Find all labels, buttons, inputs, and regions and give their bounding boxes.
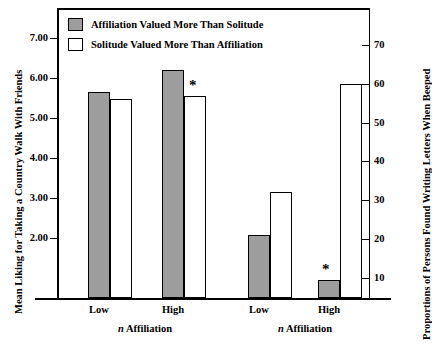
- tick-mark-left-5: [50, 118, 58, 119]
- tick-label-left-7: 7.00: [10, 33, 48, 44]
- x-axis-label-panel1-rest: Affiliation: [124, 323, 172, 334]
- tick-mark-right-40: [362, 161, 370, 162]
- plot-frame-top: [57, 8, 370, 10]
- tick-label-left-3: 3.00: [10, 193, 48, 204]
- legend-item-solitude: Solitude Valued More Than Affiliation: [68, 38, 263, 51]
- tick-label-right-10: 10: [374, 273, 398, 284]
- tick-label-right-20: 20: [374, 234, 398, 245]
- x-tick-label-panel1-low: Low: [79, 305, 119, 316]
- legend-item-affiliation: Affiliation Valued More Than Solitude: [68, 18, 263, 31]
- tick-mark-left-3: [50, 198, 58, 199]
- tick-label-right-60: 60: [374, 79, 398, 90]
- tick-label-right-70: 70: [374, 40, 398, 51]
- tick-label-right-30: 30: [374, 195, 398, 206]
- x-tick-label-panel2-high: High: [309, 305, 349, 316]
- legend-swatch-solitude: [68, 38, 83, 51]
- tick-label-left-5: 5.00: [10, 113, 48, 124]
- legend-swatch-affiliation: [68, 18, 83, 31]
- tick-mark-left-6: [50, 78, 58, 79]
- x-axis-label-panel2-rest: Affiliation: [284, 323, 332, 334]
- significance-star-left: *: [189, 78, 197, 93]
- bar-left-high-affiliation: [162, 70, 184, 298]
- plot-frame-bottom: [35, 298, 391, 300]
- tick-mark-left-7: [50, 38, 58, 39]
- tick-mark-right-60: [362, 84, 370, 85]
- tick-mark-left-4: [50, 158, 58, 159]
- bar-right-high-affiliation: [318, 280, 340, 298]
- tick-label-right-40: 40: [374, 156, 398, 167]
- bar-left-low-affiliation: [88, 92, 110, 298]
- tick-mark-right-30: [362, 200, 370, 201]
- y-axis-title-right: Proportions of Persons Found Writing Let…: [421, 69, 432, 340]
- bar-right-high-solitude: [340, 84, 362, 298]
- bar-left-high-solitude: [184, 96, 206, 298]
- bar-right-low-affiliation: [248, 235, 270, 298]
- tick-mark-left-2: [50, 238, 58, 239]
- y-axis-title-left: Mean Liking for Taking a Country Walk Wi…: [13, 70, 24, 314]
- tick-mark-right-50: [362, 123, 370, 124]
- x-tick-label-panel2-low: Low: [239, 305, 279, 316]
- bar-right-low-solitude: [270, 192, 292, 298]
- x-axis-label-panel1: n Affiliation: [105, 324, 185, 335]
- tick-label-left-2: 2.00: [10, 233, 48, 244]
- tick-mark-right-70: [362, 45, 370, 46]
- legend-label-solitude: Solitude Valued More Than Affiliation: [91, 39, 263, 50]
- plot-frame-right: [369, 8, 371, 299]
- plot-frame-left: [57, 8, 59, 299]
- tick-mark-right-10: [362, 278, 370, 279]
- tick-label-right-50: 50: [374, 118, 398, 129]
- x-axis-label-panel2: n Affiliation: [265, 324, 345, 335]
- tick-mark-right-20: [362, 239, 370, 240]
- significance-star-right: *: [322, 262, 330, 277]
- x-tick-label-panel1-high: High: [153, 305, 193, 316]
- bar-left-low-solitude: [110, 99, 132, 298]
- tick-label-left-4: 4.00: [10, 153, 48, 164]
- legend-label-affiliation: Affiliation Valued More Than Solitude: [91, 19, 263, 30]
- tick-label-left-6: 6.00: [10, 73, 48, 84]
